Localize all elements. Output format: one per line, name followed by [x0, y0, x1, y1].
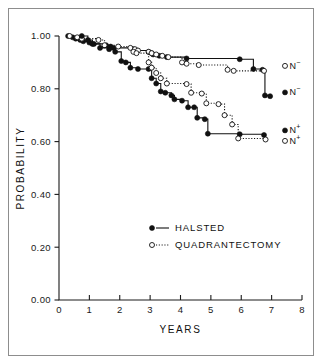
- data-point: [128, 65, 133, 70]
- data-point: [149, 65, 154, 70]
- data-point: [164, 81, 169, 86]
- y-tick-label-2: 0.60: [31, 136, 51, 147]
- data-point: [90, 41, 95, 46]
- data-point: [146, 60, 151, 65]
- data-point: [184, 56, 189, 61]
- data-point: [160, 53, 165, 58]
- label-superscript: −: [296, 85, 300, 92]
- data-point: [158, 76, 163, 81]
- x-tick-label-8: 8: [299, 304, 305, 315]
- data-point: [102, 43, 107, 48]
- x-tick-label-6: 6: [238, 304, 244, 315]
- data-point: [135, 67, 140, 72]
- x-tick-label-1: 1: [87, 304, 93, 315]
- label-marker: [283, 90, 288, 95]
- y-axis-title: PROBABILITY: [15, 126, 26, 209]
- label-text: N−: [290, 85, 301, 97]
- label-superscript: +: [296, 123, 300, 130]
- data-point: [237, 57, 242, 62]
- data-point: [268, 94, 273, 99]
- legend: HALSTEDQUADRANTECTOMY: [150, 222, 282, 250]
- data-point: [262, 93, 267, 98]
- data-point: [184, 61, 189, 66]
- y-tick-label-1: 0.80: [31, 83, 51, 94]
- data-point: [184, 82, 189, 87]
- data-point: [199, 91, 204, 96]
- data-point: [134, 51, 139, 56]
- data-point: [186, 105, 191, 110]
- data-point: [205, 131, 210, 136]
- curve-end-label-quad-n-neg: N−: [283, 59, 301, 71]
- data-point: [85, 37, 90, 42]
- label-text: N−: [290, 59, 301, 71]
- axis-lines: [59, 36, 302, 300]
- data-point: [230, 122, 235, 127]
- x-tick-label-4: 4: [178, 304, 184, 315]
- y-tick-label-5: 0.00: [31, 294, 51, 305]
- data-point: [216, 102, 221, 107]
- curve-end-labels: N−N−N+N+: [283, 59, 301, 146]
- data-point: [79, 34, 84, 39]
- series-0: [66, 34, 273, 99]
- data-point: [154, 81, 159, 86]
- survival-curves: [66, 34, 273, 142]
- data-point: [116, 44, 121, 49]
- data-point: [172, 97, 177, 102]
- kaplan-meier-plot: 1.000.800.600.400.200.00012345678 N−N−N+…: [0, 0, 322, 364]
- data-point: [96, 37, 101, 42]
- y-tick-label-0: 1.00: [31, 30, 51, 41]
- series-1: [67, 34, 266, 74]
- data-point: [107, 47, 112, 52]
- data-point: [154, 70, 159, 75]
- data-point: [113, 49, 118, 54]
- data-point: [166, 55, 171, 60]
- curve-end-label-quad-n-pos: N+: [283, 134, 301, 146]
- legend-marker: [150, 243, 155, 248]
- data-point: [202, 117, 207, 122]
- data-point: [236, 136, 241, 141]
- data-point: [98, 45, 103, 50]
- curve-end-label-halsted-n-neg: N−: [283, 85, 301, 97]
- survival-curve-figure: 1.000.800.600.400.200.00012345678 N−N−N+…: [0, 0, 322, 364]
- data-point: [195, 115, 200, 120]
- label-marker: [283, 63, 288, 68]
- data-point: [154, 52, 159, 57]
- legend-item-1: QUADRANTECTOMY: [150, 239, 282, 250]
- data-point: [189, 90, 194, 95]
- x-tick-label-2: 2: [117, 304, 123, 315]
- data-point: [222, 113, 227, 118]
- x-tick-label-7: 7: [269, 304, 275, 315]
- x-axis-title: YEARS: [160, 324, 202, 335]
- x-tick-label-0: 0: [56, 304, 62, 315]
- legend-label-0: HALSTED: [175, 222, 225, 233]
- label-text: N+: [290, 134, 301, 146]
- data-point: [180, 98, 185, 103]
- data-point: [196, 63, 201, 68]
- data-point: [158, 89, 163, 94]
- label-marker: [283, 128, 288, 133]
- data-point: [119, 59, 124, 64]
- y-tick-label-3: 0.40: [31, 189, 51, 200]
- series-line-0: [68, 36, 270, 96]
- data-point: [67, 34, 72, 39]
- data-point: [231, 68, 236, 73]
- data-point: [263, 137, 268, 142]
- x-tick-label-3: 3: [147, 304, 153, 315]
- data-point: [262, 68, 267, 73]
- label-superscript: +: [296, 134, 300, 141]
- legend-item-0: HALSTED: [150, 222, 226, 233]
- label-superscript: −: [296, 59, 300, 66]
- data-point: [192, 105, 197, 110]
- legend-label-1: QUADRANTECTOMY: [175, 239, 281, 250]
- data-point: [163, 90, 168, 95]
- x-tick-label-5: 5: [208, 304, 214, 315]
- data-point: [123, 60, 128, 65]
- data-point: [149, 76, 154, 81]
- y-tick-label-4: 0.20: [31, 242, 51, 253]
- data-point: [204, 101, 209, 106]
- legend-marker: [150, 226, 155, 231]
- series-2: [79, 34, 266, 138]
- label-marker: [283, 138, 288, 143]
- data-point: [225, 67, 230, 72]
